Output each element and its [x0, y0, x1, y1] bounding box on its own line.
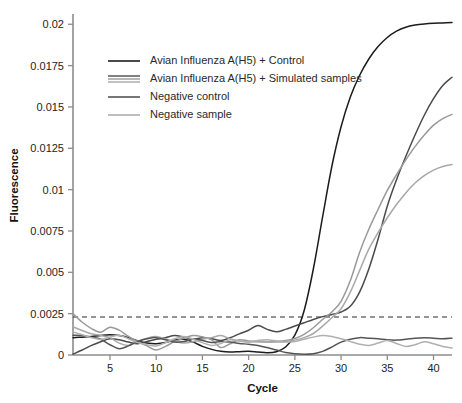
y-axis-title: Fluorescence [8, 148, 20, 222]
chart-canvas: 00.00250.0050.00750.010.01250.0150.01750… [0, 0, 462, 403]
x-axis-title: Cycle [247, 382, 278, 394]
y-tick-label: 0.0075 [30, 225, 64, 237]
curve-simulated-samples [73, 77, 452, 354]
legend: Avian Influenza A(H5) + ControlAvian Inf… [108, 54, 362, 120]
curve-simulated-samples [73, 114, 452, 350]
x-tick-label: 20 [243, 362, 255, 374]
y-tick-label: 0.0175 [30, 60, 64, 72]
y-tick-label: 0.01 [43, 184, 64, 196]
legend-item-label: Avian Influenza A(H5) + Control [150, 54, 304, 66]
x-tick-label: 25 [289, 362, 301, 374]
x-tick-label: 35 [381, 362, 393, 374]
y-tick-label: 0.005 [36, 266, 64, 278]
legend-item-label: Avian Influenza A(H5) + Simulated sample… [150, 72, 362, 84]
y-tick-label: 0.0125 [30, 142, 64, 154]
axes: 00.00250.0050.00750.010.01250.0150.01750… [30, 14, 452, 374]
y-tick-label: 0.0025 [30, 308, 64, 320]
x-tick-label: 40 [427, 362, 439, 374]
y-tick-label: 0.015 [36, 101, 64, 113]
x-tick-label: 10 [150, 362, 162, 374]
qpcr-amplification-figure: 00.00250.0050.00750.010.01250.0150.01750… [0, 0, 462, 403]
x-tick-label: 5 [107, 362, 113, 374]
curve-simulated-samples [73, 165, 452, 346]
legend-item-label: Negative sample [150, 108, 232, 120]
y-tick-label: 0.02 [43, 18, 64, 30]
legend-item-label: Negative control [150, 90, 230, 102]
x-tick-label: 15 [196, 362, 208, 374]
x-tick-label: 30 [335, 362, 347, 374]
y-tick-label: 0 [58, 349, 64, 361]
